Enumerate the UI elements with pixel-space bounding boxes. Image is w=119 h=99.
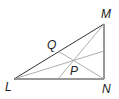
cevian-l-mn (14, 51, 104, 79)
label-n: N (102, 82, 111, 96)
label-q: Q (47, 38, 56, 52)
label-p: P (70, 64, 78, 78)
cevian-q-n (58, 51, 104, 79)
label-l: L (5, 80, 12, 94)
cevian-m-ln (58, 24, 104, 79)
triangle-diagram: M Q P L N (0, 0, 119, 99)
label-m: M (101, 7, 111, 21)
